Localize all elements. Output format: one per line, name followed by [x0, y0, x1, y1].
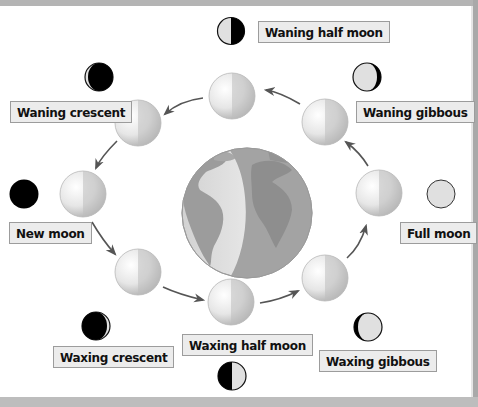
label-waning-half-moon: Waning half moon — [258, 21, 390, 43]
orbit-moon-right — [356, 170, 402, 216]
waning-half-moon-icon — [218, 18, 245, 45]
orbit-moon-lower-right — [302, 255, 348, 301]
arrow-icon — [266, 90, 300, 104]
waxing-crescent-icon — [82, 312, 110, 340]
waxing-half-moon-icon — [218, 362, 246, 390]
orbit-moon-left — [60, 171, 106, 217]
arrow-icon — [163, 287, 203, 300]
arrow-icon — [347, 226, 366, 258]
orbit-moon-upper-right — [302, 99, 348, 145]
arrow-icon — [165, 98, 203, 114]
waning-crescent-icon — [85, 63, 113, 91]
arrow-icon — [92, 222, 115, 254]
label-new-moon: New moon — [9, 222, 92, 244]
label-waxing-crescent: Waxing crescent — [53, 346, 174, 368]
arrow-icon — [96, 141, 117, 168]
orbit-moon-bottom — [208, 279, 254, 325]
label-waning-gibbous: Waning gibbous — [356, 101, 475, 123]
waning-gibbous-icon — [353, 63, 381, 91]
arrow-icon — [260, 291, 298, 303]
arrow-icon — [346, 142, 368, 166]
full-moon-icon — [427, 180, 455, 208]
orbit-moon-lower-left — [115, 249, 161, 295]
label-waxing-half-moon: Waxing half moon — [182, 334, 313, 356]
label-waxing-gibbous: Waxing gibbous — [319, 350, 437, 372]
orbit-moon-top — [209, 73, 255, 119]
waxing-gibbous-icon — [354, 313, 382, 341]
label-waning-crescent: Waning crescent — [10, 101, 132, 123]
label-full-moon: Full moon — [400, 222, 477, 244]
new-moon-icon — [10, 180, 39, 209]
earth-globe — [182, 146, 320, 281]
